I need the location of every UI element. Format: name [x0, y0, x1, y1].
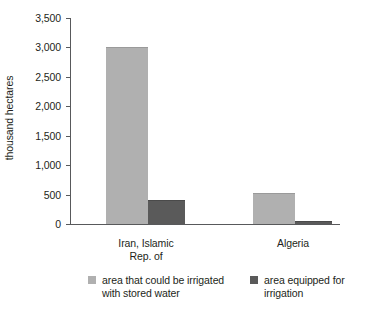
legend-swatch-icon-dark: [250, 276, 258, 284]
legend-item-area-equipped-for-irrigation: area equipped forirrigation: [250, 274, 367, 299]
y-axis-title-text: thousand hectares: [3, 76, 15, 161]
y-axis-title: thousand hectares: [0, 0, 18, 236]
bars-layer: [18, 8, 348, 238]
legend-label: area equipped forirrigation: [264, 274, 345, 299]
bar: [148, 200, 185, 224]
legend-label-line: irrigation: [264, 287, 345, 300]
bar: [253, 193, 295, 224]
legend-label-line: with stored water: [102, 287, 224, 300]
chart-legend: area that could be irrigatedwith stored …: [0, 274, 367, 312]
x-axis-category-label: Algeria: [233, 237, 353, 250]
legend-item-area-could-be-irrigated: area that could be irrigatedwith stored …: [88, 274, 248, 299]
legend-label: area that could be irrigatedwith stored …: [102, 274, 224, 299]
x-axis-category-label: Iran, IslamicRep. of: [86, 237, 206, 262]
x-axis-category-label-line: Rep. of: [86, 250, 206, 263]
legend-label-line: area that could be irrigated: [102, 274, 224, 287]
legend-swatch-icon-light: [88, 276, 96, 284]
x-axis-category-labels: Iran, IslamicRep. ofAlgeria: [18, 237, 348, 269]
bar: [106, 47, 148, 224]
x-axis-category-label-line: Algeria: [233, 237, 353, 250]
bar: [295, 221, 332, 224]
plot-area: 3,5003,0002,5002,0001,5001,0005000: [18, 8, 348, 238]
x-axis-category-label-line: Iran, Islamic: [86, 237, 206, 250]
bar-chart: thousand hectares 3,5003,0002,5002,0001,…: [0, 0, 367, 312]
legend-label-line: area equipped for: [264, 274, 345, 287]
